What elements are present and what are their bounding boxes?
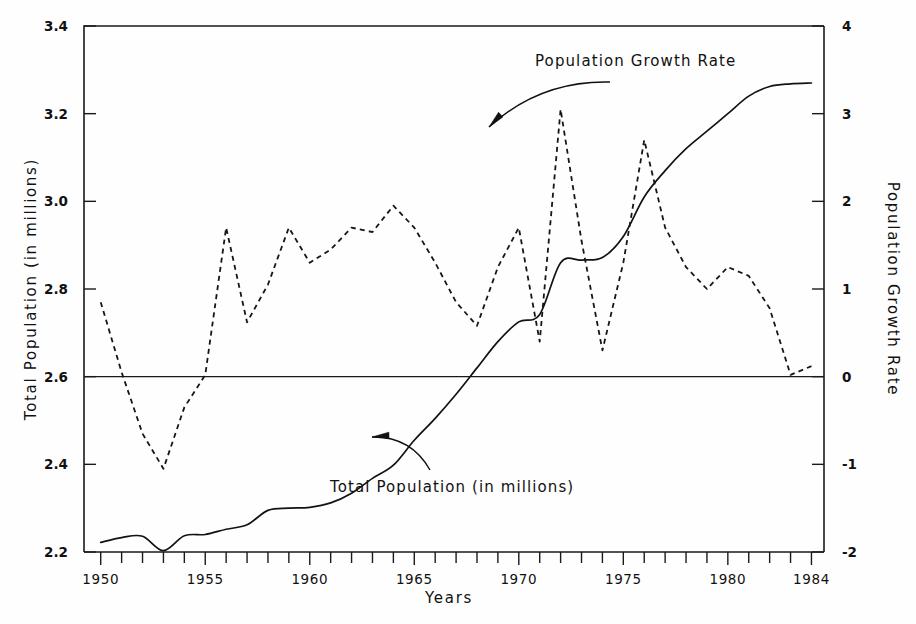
y-axis-right-tick-label: 4 bbox=[842, 18, 851, 34]
y-axis-left-tick-label: 2.2 bbox=[44, 544, 68, 560]
x-axis-tick-label: 1980 bbox=[709, 571, 746, 587]
y-axis-left-tick-label: 3.0 bbox=[44, 193, 68, 209]
y-axis-right-tick-label: -1 bbox=[842, 456, 857, 472]
x-axis-title: Years bbox=[424, 589, 473, 607]
annotation-label: Population Growth Rate bbox=[535, 52, 736, 70]
y-axis-left-tick-label: 3.4 bbox=[44, 18, 68, 34]
y-axis-left-title: Total Population (in millions) bbox=[22, 158, 40, 421]
x-axis-tick-label: 1975 bbox=[605, 571, 642, 587]
y-axis-right-tick-label: 0 bbox=[842, 369, 851, 385]
y-axis-right-tick-label: -2 bbox=[842, 544, 857, 560]
y-axis-left-tick-label: 3.2 bbox=[44, 106, 68, 122]
chart-canvas: 19501955196019651970197519801984 2.22.42… bbox=[0, 0, 916, 624]
plot-background bbox=[0, 0, 916, 624]
x-axis-tick-label: 1955 bbox=[187, 571, 224, 587]
x-axis-tick-label: 1950 bbox=[82, 571, 119, 587]
y-axis-right-tick-label: 3 bbox=[842, 106, 851, 122]
x-axis-tick-label: 1984 bbox=[793, 571, 830, 587]
y-axis-right-tick-label: 2 bbox=[842, 193, 851, 209]
x-axis-tick-label: 1960 bbox=[291, 571, 328, 587]
y-axis-left-tick-label: 2.8 bbox=[44, 281, 68, 297]
y-axis-left-tick-label: 2.6 bbox=[44, 369, 68, 385]
x-axis-tick-label: 1970 bbox=[500, 571, 537, 587]
y-axis-right-tick-label: 1 bbox=[842, 281, 851, 297]
y-axis-right-title: Population Growth Rate bbox=[884, 182, 902, 396]
y-axis-left-tick-label: 2.4 bbox=[44, 456, 68, 472]
x-axis-tick-label: 1965 bbox=[396, 571, 433, 587]
chart-figure: 19501955196019651970197519801984 2.22.42… bbox=[0, 0, 916, 624]
annotation-label: Total Population (in millions) bbox=[329, 478, 574, 496]
